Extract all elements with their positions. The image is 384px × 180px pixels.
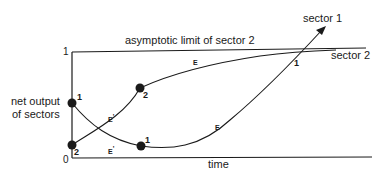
sector1-label: sector 1	[303, 13, 342, 24]
prime-mark: '	[113, 113, 115, 120]
asymptote-line	[72, 48, 366, 52]
x-axis-label: time	[208, 159, 229, 170]
asymptote-label: asymptotic limit of sector 2	[125, 35, 255, 46]
sector1-start-marker: 1	[77, 93, 82, 102]
prime-mark: '	[113, 145, 115, 152]
sector2-start-marker: 2	[74, 148, 79, 157]
sector2-mid-marker: 2	[143, 91, 148, 100]
sector2-label: sector 2	[331, 50, 370, 61]
sector1-min-marker: 1	[145, 136, 150, 145]
origin-label: 0	[63, 155, 69, 165]
e-prime-lower-label: E'	[108, 145, 114, 155]
e-sector2-label: E	[193, 59, 198, 66]
sector1-start-point	[68, 99, 77, 108]
sector1-crossing-marker: 1	[294, 59, 299, 68]
y-tick-top: 1	[63, 47, 69, 57]
diagram-canvas	[0, 0, 384, 180]
y-axis-label-line1: net output	[11, 96, 60, 107]
y-axis-label-line2: of sectors	[12, 109, 60, 120]
sector1-curve	[72, 30, 322, 148]
e-prime-upper-label: E'	[108, 113, 114, 123]
sector1-arrowhead	[316, 26, 326, 35]
e-sector1-label: E	[215, 124, 220, 131]
